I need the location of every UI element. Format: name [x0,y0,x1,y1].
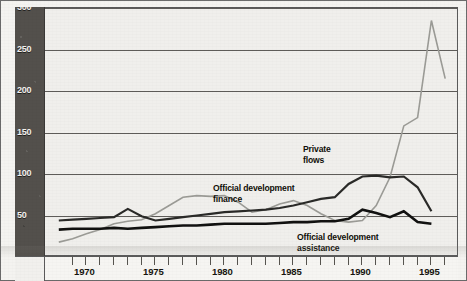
x-tick-1987 [306,257,307,265]
x-tick-1993 [389,257,390,265]
series-line-official-development-assistance [59,210,432,230]
x-axis-label-1990: 1990 [350,266,371,277]
x-tick-1986 [292,257,293,265]
y-tick-label-50: 50 [17,211,44,220]
x-tick-1979 [196,257,197,265]
x-tick-1976 [154,257,155,265]
x-axis-label-1985: 1985 [281,266,302,277]
x-tick-1971 [85,257,86,265]
y-tick-label-300: 300 [17,7,44,12]
x-tick-1992 [375,257,376,265]
x-tick-1974 [127,257,128,265]
x-tick-1970 [72,257,73,265]
x-tick-1978 [182,257,183,265]
x-axis-label-1975: 1975 [143,266,164,277]
series-label-official-development-finance: Official development finance [213,183,295,204]
x-tick-1990 [348,257,349,265]
x-axis-corner [15,257,45,281]
chart-screenshot: Private flows Official development finan… [0,0,467,281]
x-tick-1972 [99,257,100,265]
x-tick-1988 [320,257,321,265]
x-tick-1983 [251,257,252,265]
x-axis-label-1980: 1980 [212,266,233,277]
x-tick-1985 [279,257,280,265]
x-tick-1991 [361,257,362,265]
x-axis: 197019751980198519901995 [15,256,458,281]
x-axis-label-1970: 1970 [74,266,95,277]
x-tick-1989 [334,257,335,265]
plot-area: Private flows Official development finan… [44,7,458,256]
figure-frame: Private flows Official development finan… [0,0,467,281]
x-tick-1984 [265,257,266,265]
x-tick-1973 [113,257,114,265]
x-tick-1981 [223,257,224,265]
series-lines [45,8,458,256]
x-axis-label-1995: 1995 [419,266,440,277]
x-tick-1994 [403,257,404,265]
y-tick-label-100: 100 [17,169,44,178]
series-line-private-flows [59,21,445,243]
x-tick-1975 [141,257,142,265]
y-axis-label-band: 50100150200250300 [15,7,45,256]
series-label-official-development-assistance: Official development assistance [297,232,379,253]
x-tick-1982 [237,257,238,265]
x-tick-1977 [168,257,169,265]
y-tick-label-150: 150 [17,128,44,137]
series-label-private-flows: Private flows [303,144,331,165]
x-tick-1980 [210,257,211,265]
y-tick-label-200: 200 [17,86,44,95]
x-tick-1995 [417,257,418,265]
x-tick-1996 [430,257,431,265]
x-tick-1997 [444,257,445,265]
y-tick-label-250: 250 [17,45,44,54]
